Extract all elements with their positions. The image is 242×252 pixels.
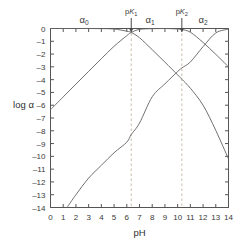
y-tick-label: –9 (37, 140, 46, 149)
x-axis-title: pH (133, 227, 145, 238)
y-axis-title: log α (13, 99, 34, 110)
curve-alpha-2 (67, 29, 228, 207)
y-tick-label: –11 (33, 165, 46, 174)
y-tick-label: –7 (37, 114, 46, 123)
x-tick-label: 5 (112, 213, 117, 222)
y-tick-label: –12 (32, 178, 46, 187)
alpha-1-region-label: α1 (145, 14, 155, 26)
x-tick-label: 13 (211, 213, 220, 222)
curve-alpha-1 (51, 28, 229, 109)
pk2-label: pK2 (176, 7, 188, 17)
x-tick-label: 12 (199, 213, 208, 222)
x-tick-label: 4 (99, 213, 104, 222)
chart-canvas: 0–1–2–3–4–5–6–7–8–9–10–11–12–13–14012345… (0, 0, 242, 252)
pk1-label: pK1 (125, 7, 137, 17)
y-tick-label: –1 (37, 37, 46, 46)
y-tick-label: –6 (37, 101, 46, 110)
y-tick-label: –5 (37, 88, 46, 97)
y-tick-label: –8 (37, 127, 46, 136)
y-tick-label: –3 (37, 63, 46, 72)
y-tick-label: –4 (37, 76, 46, 85)
x-tick-label: 14 (224, 213, 233, 222)
alpha-2-region-label: α2 (198, 14, 208, 26)
x-tick-label: 2 (74, 213, 79, 222)
x-tick-label: 7 (137, 213, 142, 222)
x-tick-label: 0 (48, 213, 53, 222)
y-tick-label: –13 (32, 191, 46, 200)
y-tick-label: –10 (32, 152, 46, 161)
x-tick-label: 11 (186, 213, 195, 222)
y-tick-label: 0 (41, 25, 46, 34)
y-tick-label: –14 (32, 204, 46, 213)
x-tick-label: 1 (61, 213, 66, 222)
x-tick-label: 8 (150, 213, 155, 222)
y-tick-label: –2 (37, 50, 46, 59)
x-tick-label: 6 (125, 213, 130, 222)
log-alpha-ph-diagram: 0–1–2–3–4–5–6–7–8–9–10–11–12–13–14012345… (0, 0, 242, 252)
alpha-0-region-label: α0 (79, 14, 89, 26)
x-tick-label: 10 (173, 213, 182, 222)
x-tick-label: 3 (86, 213, 91, 222)
x-tick-label: 9 (163, 213, 168, 222)
